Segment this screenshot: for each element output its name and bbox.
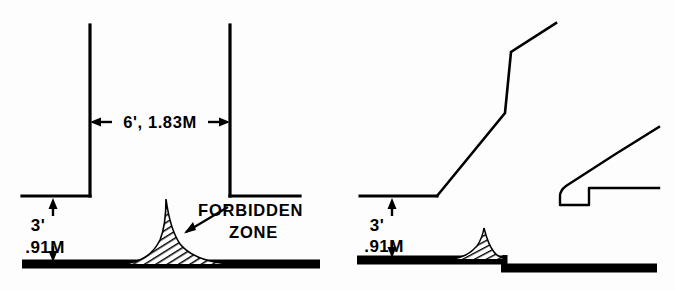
forbidden-zone-diagram: 6', 1.83M 3' .91M FORBIDDEN ZONE — [0, 0, 675, 290]
diagram-root: 6', 1.83M 3' .91M FORBIDDEN ZONE — [0, 0, 675, 290]
forbidden-zone-label-line1: FORBIDDEN — [198, 201, 303, 219]
height-feet-label-right: 3' — [370, 216, 384, 235]
height-meters-label-left: .91M — [25, 238, 64, 257]
width-dimension-label: 6', 1.83M — [123, 113, 197, 131]
height-meters-label-right: .91M — [364, 237, 403, 256]
forbidden-zone-label-line2: ZONE — [229, 223, 278, 241]
height-feet-label-left: 3' — [31, 216, 45, 235]
diagram-background — [0, 0, 675, 290]
